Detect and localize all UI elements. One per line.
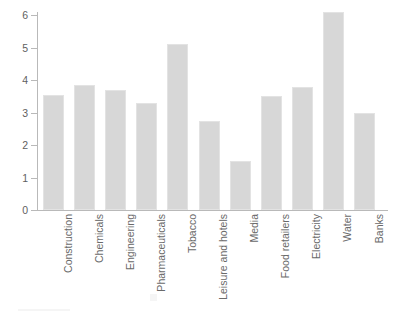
- x-axis-tick-label: Chemicals: [90, 214, 101, 263]
- bar: [230, 161, 251, 210]
- bar: [43, 95, 64, 210]
- x-axis-tick-label: Electricity: [307, 214, 318, 259]
- scan-artifact: [150, 294, 157, 301]
- x-axis-tick-label: Media: [245, 214, 256, 243]
- scan-artifact: [18, 309, 70, 311]
- x-axis-tick-label-text: Engineering: [125, 214, 136, 270]
- bar: [105, 90, 126, 210]
- x-axis-tick-label-text: Water: [342, 214, 353, 242]
- x-axis-tick-label: Food retailers: [276, 214, 287, 278]
- x-axis-tick-label: Water: [338, 214, 349, 242]
- x-axis-tick-label-text: Electricity: [311, 214, 322, 259]
- bar: [167, 44, 188, 210]
- x-axis-tick-label-text: Media: [249, 214, 260, 243]
- bar: [136, 103, 157, 210]
- x-axis-tick-label: Leisure and hotels: [214, 214, 225, 300]
- bar: [261, 96, 282, 210]
- x-axis-tick-label-text: Pharmaceuticals: [156, 214, 167, 292]
- x-axis-tick-label: Banks: [370, 214, 381, 243]
- x-axis-tick-label-text: Construction: [63, 214, 74, 273]
- x-axis-tick-label: Pharmaceuticals: [152, 214, 163, 292]
- bar: [354, 113, 375, 210]
- x-axis-tick-label: Engineering: [121, 214, 132, 270]
- x-axis-tick-label-text: Food retailers: [280, 214, 291, 278]
- bar: [323, 12, 344, 210]
- x-axis-tick-label-text: Tobacco: [187, 214, 198, 253]
- x-axis-tick-labels: ConstructionChemicalsEngineeringPharmace…: [0, 214, 404, 314]
- bar: [199, 121, 220, 210]
- x-axis-tick-label-text: Banks: [374, 214, 385, 243]
- bar-chart: 0123456 ConstructionChemicalsEngineering…: [0, 0, 404, 318]
- bar: [292, 87, 313, 210]
- x-axis-tick-label-text: Leisure and hotels: [218, 214, 229, 300]
- bar: [74, 85, 95, 210]
- x-axis-tick-label: Tobacco: [183, 214, 194, 253]
- x-axis-tick-label-text: Chemicals: [94, 214, 105, 263]
- x-axis-tick-label: Construction: [59, 214, 70, 273]
